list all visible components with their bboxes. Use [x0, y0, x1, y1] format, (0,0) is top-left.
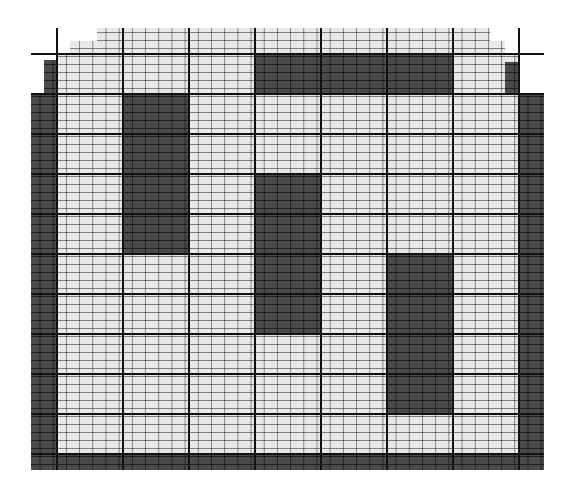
- major-row-line: [31, 333, 544, 335]
- major-row-line: [31, 173, 544, 175]
- major-row-line: [31, 453, 544, 455]
- major-row-line: [31, 293, 544, 295]
- grid-board: [0, 0, 571, 497]
- major-row-line: [31, 93, 544, 95]
- dark-region: [505, 62, 519, 94]
- light-region: [97, 28, 490, 41]
- major-row-line: [31, 373, 544, 375]
- dark-region: [57, 454, 519, 470]
- major-row-line: [31, 253, 544, 255]
- major-row-line: [31, 133, 544, 135]
- major-row-line: [31, 213, 544, 215]
- dark-region: [255, 54, 453, 94]
- major-row-line: [31, 413, 544, 415]
- major-row-line: [31, 53, 544, 55]
